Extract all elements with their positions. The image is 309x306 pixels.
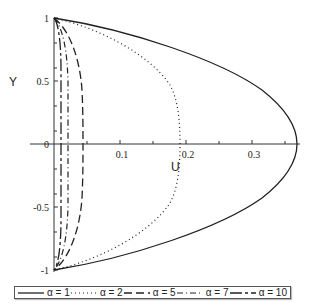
legend-item-alpha-10: α = 10 [230,287,287,298]
solid-line-icon [18,290,44,296]
legend-label: α = 1 [47,287,70,298]
legend: α = 1 α = 2 α = 5 α = 7 α = 10 [14,286,291,299]
y-tick-label-neg0.5: -0.5 [33,202,49,213]
legend-item-alpha-5: α = 5 [124,287,176,298]
chart-canvas: 1 0.5 0 -0.5 -1 0.1 0.2 0.3 Y U [0,0,309,306]
x-tick-label-0.3: 0.3 [248,149,261,160]
legend-label: α = 7 [206,287,229,298]
legend-label: α = 10 [259,287,287,298]
legend-label: α = 2 [100,287,123,298]
y-tick-label-neg1: -1 [41,265,49,276]
y-tick-label-0: 0 [44,139,49,150]
x-tick-label-0.2: 0.2 [182,149,195,160]
legend-item-alpha-1: α = 1 [18,287,70,298]
y-axis-label: Y [9,75,17,89]
dotted-line-icon [71,290,97,296]
legend-label: α = 5 [153,287,176,298]
legend-item-alpha-7: α = 7 [177,287,229,298]
x-ticks [87,140,285,144]
dash-dot-line-icon [177,290,203,296]
long-dash-short-dash-line-icon [230,290,256,296]
legend-item-alpha-2: α = 2 [71,287,123,298]
x-tick-label-0.1: 0.1 [116,149,129,160]
y-tick-label-0.5: 0.5 [37,76,50,87]
y-tick-label-1: 1 [44,13,49,24]
dashed-line-icon [124,290,150,296]
